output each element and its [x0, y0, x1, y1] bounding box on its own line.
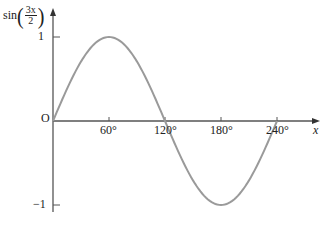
- x-tick-label-60: 60°: [100, 123, 117, 138]
- y-label-func: sin: [3, 8, 17, 23]
- close-paren: ): [38, 4, 45, 28]
- origin-label: O: [41, 111, 50, 126]
- y-axis-arrow-icon: [50, 8, 56, 16]
- x-tick-label-120: 120°: [154, 123, 177, 138]
- open-paren: (: [17, 4, 24, 28]
- y-tick-label-neg1: −1: [33, 197, 46, 212]
- y-tick-label-1: 1: [38, 29, 44, 44]
- y-label-fraction: 3x 2: [25, 5, 37, 26]
- x-tick-label-180: 180°: [210, 123, 233, 138]
- x-axis-label: x: [313, 123, 318, 138]
- y-label-denominator: 2: [28, 16, 33, 26]
- x-tick-label-240: 240°: [266, 123, 289, 138]
- y-axis-label: sin ( 3x 2 ): [3, 5, 44, 26]
